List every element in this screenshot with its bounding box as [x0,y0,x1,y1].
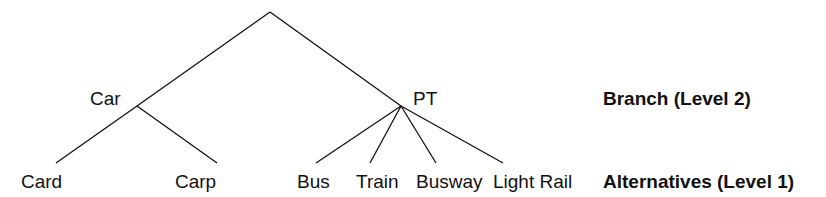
alt-carp-label: Carp [175,172,216,191]
level-2-legend: Branch (Level 2) [603,89,751,108]
edge-pt-bus [316,106,401,163]
alt-train-label: Train [356,172,399,191]
alt-bus-label: Bus [297,172,330,191]
alt-busway-label: Busway [416,172,483,191]
level-1-legend: Alternatives (Level 1) [603,172,794,191]
edge-root-pt [270,12,401,106]
alt-light-rail-label: Light Rail [493,172,572,191]
branch-pt-label: PT [413,89,437,108]
edge-pt-train [370,106,401,163]
edge-car-card [56,106,137,163]
edge-pt-light-rail [401,106,503,163]
edge-pt-busway [401,106,436,163]
edge-root-car [137,12,270,106]
edge-car-carp [137,106,217,163]
branch-car-label: Car [90,89,121,108]
alt-card-label: Card [21,172,62,191]
